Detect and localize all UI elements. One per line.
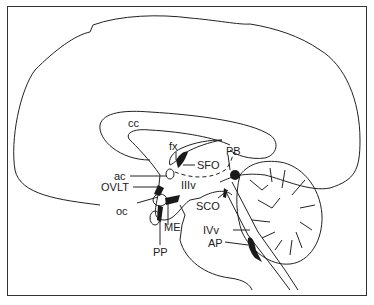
label-pb: PB (226, 146, 241, 157)
sfo-shape (176, 151, 188, 168)
label-ap: AP (208, 238, 223, 249)
label-fx: fx (169, 141, 178, 152)
sco-shape (223, 188, 227, 198)
label-sco: SCO (196, 201, 220, 212)
label-cc: cc (128, 118, 139, 129)
label-ivv: IVv (203, 225, 219, 236)
label-oc: oc (116, 206, 128, 217)
label-iiiv: IIIv (181, 180, 196, 191)
corpus-callosum (100, 111, 276, 160)
brainstem (225, 190, 290, 290)
label-sfo: SFO (197, 160, 220, 171)
label-pp: PP (153, 247, 168, 258)
brain-diagram (0, 0, 374, 305)
pb-shape (230, 170, 240, 180)
label-ovlt: OVLT (101, 182, 129, 193)
cerebrum-outline (14, 16, 360, 205)
me-shape (165, 195, 180, 205)
label-me: ME (164, 222, 181, 233)
